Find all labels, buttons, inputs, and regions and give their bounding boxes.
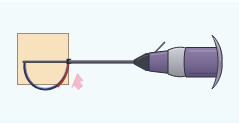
shaft-highlight — [69, 60, 138, 61]
tissue-block — [18, 34, 69, 85]
instrument-shaft — [69, 60, 138, 63]
page-edge-bottom — [0, 119, 239, 123]
page-edge-top — [0, 0, 239, 2]
tissue-block-body — [18, 34, 69, 85]
handle-main-body — [184, 48, 221, 78]
instrument-diagram-svg — [0, 0, 239, 123]
illustration-canvas — [0, 0, 239, 123]
handle-main-barrel[interactable] — [184, 48, 221, 78]
handle-front-segment[interactable] — [149, 51, 170, 74]
